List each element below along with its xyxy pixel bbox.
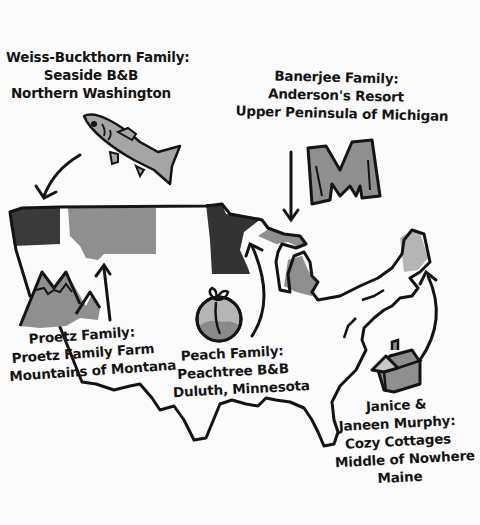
callout-washington: Weiss-Buckthorn Family: Seaside B&B Nort…	[6, 48, 176, 102]
callout-montana: Proetz Family: Proetz Family Farm Mounta…	[6, 321, 159, 385]
callout-michigan: Banerjee Family: Anderson's Resort Upper…	[235, 65, 436, 124]
arrow-maine-icon	[420, 272, 436, 360]
peach-icon	[197, 288, 241, 341]
cottage-icon	[372, 340, 422, 392]
state-montana	[68, 208, 156, 260]
fish-icon	[84, 115, 180, 184]
callout-minnesota: Peach Family: Peachtree B&B Duluth, Minn…	[171, 341, 296, 401]
arrow-michigan-icon	[284, 152, 298, 220]
family-name: Weiss-Buckthorn Family:	[6, 48, 176, 66]
letter-m-icon	[308, 140, 380, 204]
mountains-icon	[20, 272, 100, 328]
resort-name: Seaside B&B	[6, 66, 176, 84]
arrow-washington-icon	[36, 155, 80, 198]
arrow-minnesota-icon	[246, 244, 264, 336]
callout-maine: Janice & Janeen Murphy: Cozy Cottages Mi…	[332, 393, 465, 490]
location-name: Northern Washington	[6, 84, 176, 102]
state-washington	[10, 208, 60, 246]
